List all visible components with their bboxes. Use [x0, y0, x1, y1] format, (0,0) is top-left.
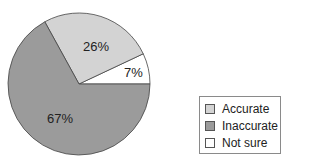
legend-label-inaccurate: Inaccurate — [222, 119, 278, 133]
legend-label-not-sure: Not sure — [222, 136, 267, 150]
slice-label-inaccurate: 67% — [47, 111, 73, 126]
chart-legend: Accurate Inaccurate Not sure — [199, 96, 281, 154]
legend-swatch-not-sure — [205, 138, 215, 148]
legend-item-accurate: Accurate — [205, 100, 275, 117]
slice-label-not-sure: 7% — [124, 65, 143, 80]
legend-swatch-inaccurate — [205, 121, 215, 131]
legend-item-inaccurate: Inaccurate — [205, 117, 275, 134]
slice-label-accurate: 26% — [83, 39, 109, 54]
legend-label-accurate: Accurate — [222, 102, 269, 116]
legend-item-not-sure: Not sure — [205, 134, 275, 151]
legend-swatch-accurate — [205, 104, 215, 114]
